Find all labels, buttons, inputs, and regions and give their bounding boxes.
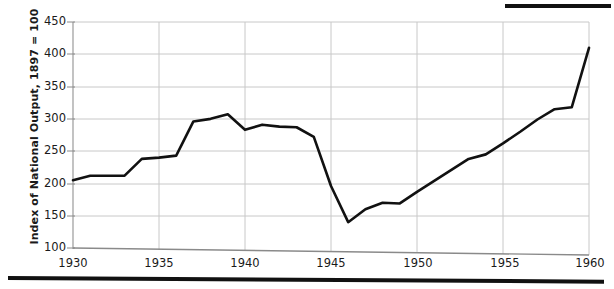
plot-area — [0, 0, 614, 289]
x-tick-label: 1935 — [129, 258, 189, 270]
x-tick-label: 1930 — [43, 258, 103, 270]
x-tick-label: 1945 — [301, 258, 361, 270]
chart-figure: Index of National Output, 1897 = 100 450… — [0, 0, 614, 289]
x-tick-label: 1940 — [215, 258, 275, 270]
x-tick-label: 1955 — [475, 258, 535, 270]
x-tick-label: 1960 — [560, 258, 614, 270]
x-tick-label: 1950 — [388, 258, 448, 270]
y-tick-marks — [67, 22, 75, 248]
